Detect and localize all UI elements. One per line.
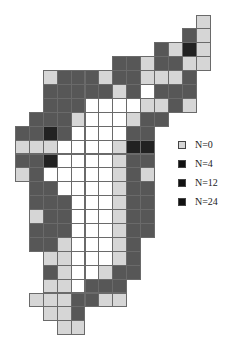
grid-cell bbox=[182, 28, 197, 43]
grid-cell bbox=[43, 181, 58, 196]
grid-cell bbox=[43, 154, 58, 169]
grid-cell bbox=[57, 251, 72, 266]
grid-cell bbox=[140, 84, 155, 99]
grid-cell bbox=[98, 154, 113, 169]
legend-swatch-n4 bbox=[178, 160, 186, 168]
grid-cell bbox=[85, 265, 100, 280]
grid-cell bbox=[196, 15, 211, 30]
grid-cell bbox=[112, 293, 127, 308]
grid-cell bbox=[168, 84, 183, 99]
grid-cell bbox=[196, 42, 211, 57]
grid-cell bbox=[85, 251, 100, 266]
grid-cell bbox=[85, 140, 100, 155]
grid-cell bbox=[154, 42, 169, 57]
grid-cell bbox=[85, 98, 100, 113]
grid-cell bbox=[140, 56, 155, 71]
grid-cell bbox=[71, 181, 86, 196]
legend-swatch-n24 bbox=[178, 198, 186, 206]
grid-cell bbox=[182, 84, 197, 99]
grid-cell bbox=[98, 251, 113, 266]
grid-cell bbox=[43, 140, 58, 155]
grid-cell bbox=[112, 279, 127, 294]
grid-cell bbox=[126, 84, 141, 99]
grid-cell bbox=[98, 279, 113, 294]
grid-cell bbox=[29, 154, 44, 169]
grid-cell bbox=[126, 126, 141, 141]
legend-label-n12: N=12 bbox=[195, 177, 218, 189]
grid-cell bbox=[71, 167, 86, 182]
grid-cell bbox=[43, 279, 58, 294]
grid-cell bbox=[57, 167, 72, 182]
grid-cell bbox=[98, 265, 113, 280]
grid-cell bbox=[98, 181, 113, 196]
grid-map bbox=[0, 0, 226, 351]
grid-cell bbox=[112, 237, 127, 252]
grid-cell bbox=[126, 70, 141, 85]
grid-cell bbox=[112, 112, 127, 127]
grid-cell bbox=[98, 293, 113, 308]
grid-cell bbox=[126, 181, 141, 196]
grid-cell bbox=[140, 70, 155, 85]
grid-cell bbox=[43, 237, 58, 252]
grid-cell bbox=[43, 209, 58, 224]
legend-swatch-n12 bbox=[178, 179, 186, 187]
legend-label-n24: N=24 bbox=[195, 196, 218, 208]
grid-cell bbox=[29, 140, 44, 155]
grid-cell bbox=[182, 70, 197, 85]
grid-cell bbox=[71, 140, 86, 155]
grid-cell bbox=[29, 237, 44, 252]
grid-cell bbox=[57, 126, 72, 141]
grid-cell bbox=[154, 112, 169, 127]
grid-cell bbox=[98, 237, 113, 252]
grid-cell bbox=[85, 237, 100, 252]
grid-cell bbox=[112, 167, 127, 182]
grid-cell bbox=[71, 306, 86, 321]
grid-cell bbox=[168, 70, 183, 85]
grid-cell bbox=[154, 56, 169, 71]
grid-cell bbox=[112, 265, 127, 280]
grid-cell bbox=[126, 167, 141, 182]
legend-item-n4: N=4 bbox=[176, 159, 226, 171]
grid-cell bbox=[154, 98, 169, 113]
grid-cell bbox=[43, 195, 58, 210]
grid-cell bbox=[182, 42, 197, 57]
grid-cell bbox=[112, 251, 127, 266]
grid-cell bbox=[98, 126, 113, 141]
legend-item-n24: N=24 bbox=[176, 197, 226, 209]
grid-cell bbox=[57, 265, 72, 280]
grid-cell bbox=[196, 28, 211, 43]
grid-cell bbox=[71, 265, 86, 280]
grid-cell bbox=[71, 279, 86, 294]
grid-cell bbox=[140, 195, 155, 210]
grid-cell bbox=[71, 209, 86, 224]
grid-cell bbox=[154, 70, 169, 85]
grid-cell bbox=[43, 126, 58, 141]
grid-cell bbox=[57, 181, 72, 196]
grid-cell bbox=[57, 237, 72, 252]
grid-cell bbox=[140, 167, 155, 182]
grid-cell bbox=[98, 167, 113, 182]
grid-cell bbox=[57, 70, 72, 85]
grid-cell bbox=[85, 293, 100, 308]
grid-cell bbox=[126, 56, 141, 71]
grid-cell bbox=[85, 112, 100, 127]
grid-cell bbox=[43, 251, 58, 266]
grid-cell bbox=[29, 126, 44, 141]
grid-cell bbox=[98, 98, 113, 113]
grid-cell bbox=[43, 167, 58, 182]
grid-cell bbox=[196, 56, 211, 71]
grid-cell bbox=[126, 237, 141, 252]
grid-cell bbox=[112, 154, 127, 169]
grid-cell bbox=[126, 195, 141, 210]
grid-cell bbox=[112, 98, 127, 113]
grid-cell bbox=[112, 84, 127, 99]
grid-cell bbox=[43, 293, 58, 308]
grid-cell bbox=[140, 140, 155, 155]
grid-cell bbox=[126, 98, 141, 113]
grid-cell bbox=[168, 56, 183, 71]
grid-cell bbox=[29, 181, 44, 196]
grid-cell bbox=[112, 70, 127, 85]
grid-cell bbox=[57, 320, 72, 335]
grid-cell bbox=[43, 223, 58, 238]
grid-cell bbox=[57, 306, 72, 321]
